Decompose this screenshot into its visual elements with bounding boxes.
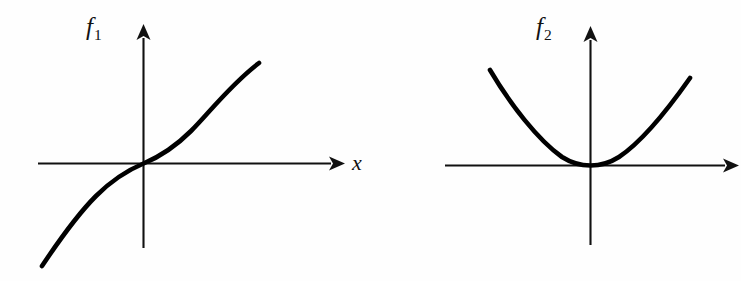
function-label-f2-subscript: 2 [544, 26, 552, 43]
function-label-f1-subscript: 1 [94, 26, 102, 43]
plot-f1: f1 [0, 0, 370, 281]
plot-f2-svg [370, 0, 741, 281]
function-label-f2-base: f [536, 13, 543, 40]
y-axis-arrowhead-icon [137, 24, 151, 40]
figure-canvas: f1 f2 x [0, 0, 741, 281]
function-label-f1: f1 [86, 14, 101, 39]
function-label-f2: f2 [536, 14, 551, 39]
function-label-f1-base: f [86, 13, 93, 40]
x-axis-arrowhead-icon [723, 159, 739, 173]
plot-f1-svg [0, 0, 370, 281]
x-axis-label: x [352, 152, 362, 174]
plot-f2: f2 [370, 0, 741, 281]
y-axis-arrowhead-icon [584, 26, 598, 42]
x-axis-arrowhead-icon [329, 157, 345, 171]
